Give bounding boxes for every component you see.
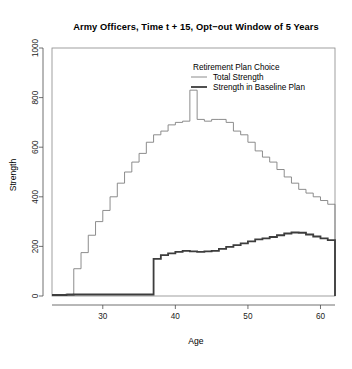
x-tick-label: 60: [316, 312, 326, 321]
y-tick-label: 0: [31, 293, 40, 298]
y-axis-label: Strength: [8, 159, 18, 192]
x-axis-label: Age: [188, 336, 204, 346]
y-tick-label: 800: [31, 90, 40, 104]
chart-title: Army Officers, Time t + 15, Opt−out Wind…: [73, 22, 319, 32]
chart-container: Army Officers, Time t + 15, Opt−out Wind…: [0, 0, 352, 369]
legend-title: Retirement Plan Choice: [193, 63, 280, 72]
legend-label-1: Total Strength: [213, 73, 264, 82]
army-officers-strength-step-chart: Army Officers, Time t + 15, Opt−out Wind…: [0, 0, 352, 369]
x-tick-label: 30: [98, 312, 108, 321]
y-tick-label: 600: [31, 140, 40, 154]
x-tick-label: 50: [243, 312, 253, 321]
legend-label-2: Strength in Baseline Plan: [213, 83, 305, 92]
x-tick-label: 40: [171, 312, 181, 321]
y-tick-label: 1000: [31, 38, 40, 57]
y-tick-label: 200: [31, 239, 40, 253]
y-tick-label: 400: [31, 190, 40, 204]
